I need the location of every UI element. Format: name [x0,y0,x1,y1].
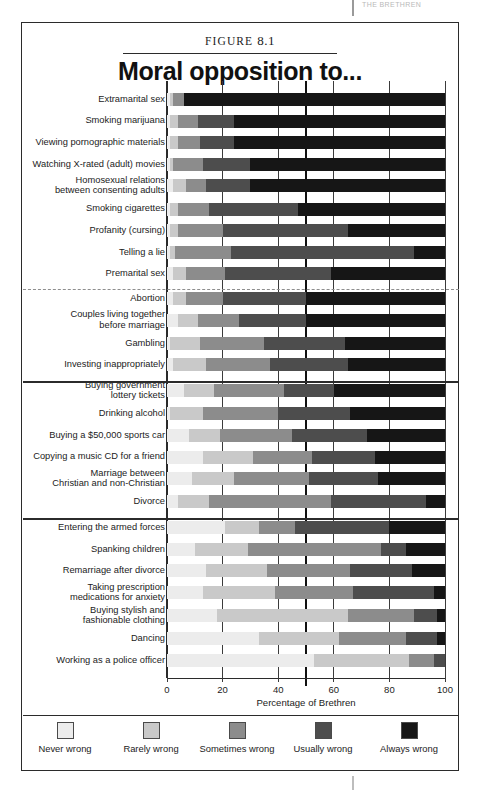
bar-segment-usually-wrong [414,609,436,622]
category-label: Taking prescription medications for anxi… [5,582,165,603]
bar-segment-usually-wrong [381,543,406,556]
bar-segment-always-wrong [378,472,445,485]
bar-segment-never-wrong [167,654,314,667]
category-label: Extramarital sex [5,94,165,104]
x-tick-label: 100 [430,684,460,695]
category-label: Abortion [5,293,165,303]
bar-segment-usually-wrong [350,564,411,577]
bar-segment-sometimes-wrong [173,93,184,106]
legend-item-rarely-wrong[interactable]: Rarely wrong [108,722,194,754]
stacked-bar [167,564,445,577]
bar-segment-sometimes-wrong [186,292,222,305]
bar-segment-usually-wrong [284,384,334,397]
header-rule [352,0,354,16]
bar-segment-usually-wrong [223,224,348,237]
x-tick-label: 40 [263,684,293,695]
stacked-bar [167,292,445,305]
bar-segment-usually-wrong [203,158,250,171]
category-label: Couples living together before marriage [5,309,165,330]
stacked-bar [167,203,445,216]
stacked-bar [167,472,445,485]
legend-swatch-icon [143,722,160,739]
bar-segment-never-wrong [167,564,206,577]
legend-swatch-icon [57,722,74,739]
stacked-bar [167,632,445,645]
bar-segment-never-wrong [167,543,195,556]
group-divider [23,518,459,519]
x-tick-60 [333,678,334,682]
bar-segment-rarely-wrong [178,495,209,508]
legend-label: Rarely wrong [108,743,194,754]
x-axis-line [167,678,445,679]
bar-segment-usually-wrong [278,407,350,420]
bar-segment-rarely-wrong [217,609,348,622]
bar-segment-rarely-wrong [173,292,187,305]
bar-segment-never-wrong [167,384,184,397]
category-label: Smoking marijuana [5,115,165,125]
bar-segment-always-wrong [250,158,445,171]
category-label: Buying a $50,000 sports car [5,430,165,440]
bar-segment-always-wrong [348,224,445,237]
bar-segment-sometimes-wrong [253,451,311,464]
category-label: Profanity (cursing) [5,225,165,235]
legend-item-never-wrong[interactable]: Never wrong [22,722,108,754]
bar-segment-always-wrong [406,543,445,556]
bar-segment-usually-wrong [309,472,379,485]
x-tick-label: 60 [319,684,349,695]
bar-segment-always-wrong [184,93,445,106]
bar-segment-sometimes-wrong [200,337,264,350]
bar-segment-usually-wrong [225,267,331,280]
stacked-bar [167,586,445,599]
bar-segment-always-wrong [414,246,445,259]
bar-segment-rarely-wrong [170,407,203,420]
bar-segment-usually-wrong [264,337,345,350]
bar-segment-rarely-wrong [170,224,178,237]
bar-segment-usually-wrong [239,314,306,327]
bar-segment-sometimes-wrong [220,429,292,442]
bar-segment-sometimes-wrong [267,564,350,577]
bar-segment-rarely-wrong [195,543,248,556]
legend-item-sometimes-wrong[interactable]: Sometimes wrong [194,722,280,754]
category-label: Premarital sex [5,268,165,278]
bar-segment-usually-wrong [292,429,367,442]
bar-segment-rarely-wrong [178,314,197,327]
bar-segment-never-wrong [167,472,192,485]
x-tick-80 [389,678,390,682]
bar-segment-rarely-wrong [203,451,253,464]
category-label: Gambling [5,338,165,348]
bar-segment-sometimes-wrong [234,472,309,485]
bar-segment-rarely-wrong [189,429,220,442]
legend-item-always-wrong[interactable]: Always wrong [366,722,452,754]
bar-segment-rarely-wrong [170,115,178,128]
bar-segment-sometimes-wrong [214,384,284,397]
chart-legend: Never wrongRarely wrongSometimes wrongUs… [22,722,460,770]
bar-segment-rarely-wrong [203,586,275,599]
x-tick-label: 0 [152,684,182,695]
bar-segment-always-wrong [306,314,445,327]
bar-segment-rarely-wrong [170,136,178,149]
category-label: Watching X-rated (adult) movies [5,159,165,169]
legend-item-usually-wrong[interactable]: Usually wrong [280,722,366,754]
legend-swatch-icon [401,722,418,739]
bar-segment-always-wrong [298,203,445,216]
stacked-bar [167,543,445,556]
stacked-bar [167,358,445,371]
stacked-bar [167,451,445,464]
bar-segment-always-wrong [367,429,445,442]
x-tick-20 [222,678,223,682]
x-tick-100 [445,678,446,682]
legend-label: Usually wrong [280,743,366,754]
bar-segment-usually-wrong [270,358,348,371]
bar-segment-sometimes-wrong [175,246,231,259]
bar-segment-never-wrong [167,632,259,645]
bar-segment-always-wrong [306,292,445,305]
category-label: Remarriage after divorce [5,565,165,575]
bar-segment-rarely-wrong [192,472,234,485]
bar-segment-always-wrong [437,609,445,622]
bar-segment-rarely-wrong [314,654,409,667]
bar-segment-sometimes-wrong [186,179,205,192]
legend-label: Never wrong [22,743,108,754]
stacked-bar [167,384,445,397]
bar-segment-usually-wrong [198,115,234,128]
category-label: Dancing [5,633,165,643]
